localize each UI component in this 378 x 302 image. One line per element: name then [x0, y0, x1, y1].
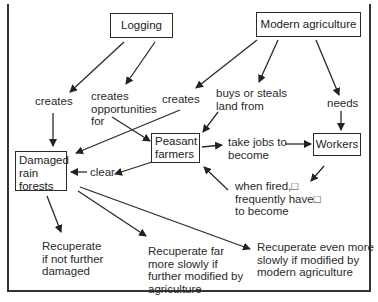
node-damaged-rain-forests-label: Damaged rain forests [19, 154, 69, 193]
arrow-forests-to-recuperate1 [47, 196, 61, 232]
arrow-buys-to-peasants [203, 112, 218, 132]
arrow-peasants-to-clear [115, 162, 152, 174]
node-modern-agriculture-label: Modern agriculture [261, 18, 357, 31]
outcome-recuperate-far-slowly: Recuperate far more slowly if further mo… [148, 245, 243, 295]
node-workers-label: Workers [316, 138, 359, 151]
node-peasant-farmers: Peasant farmers [151, 133, 200, 163]
arrow-logging-to-opportunities [126, 42, 155, 84]
node-damaged-rain-forests: Damaged rain forests [15, 151, 67, 191]
label-peasants-take-jobs: take jobs to become [228, 136, 287, 161]
outcome-recuperate-not-damaged: Recuperate if not further damaged [42, 240, 103, 278]
label-logging-opportunities: creates opportunities for [91, 90, 157, 128]
node-logging: Logging [110, 13, 173, 38]
label-peasants-clear: clear [90, 166, 115, 179]
label-agriculture-needs: needs [327, 97, 358, 110]
arrow-whenfired-to-peasants [204, 167, 228, 190]
label-agriculture-creates: creates [162, 93, 200, 106]
arrow-logging-to-creates [70, 42, 124, 92]
label-workers-fired: when fired,□ frequently have□ to become [235, 180, 321, 218]
arrow-forests-to-recuperate2 [78, 191, 146, 236]
arrow-agriculture-to-buys [259, 40, 278, 82]
arrow-agriculture-to-needs [316, 40, 339, 95]
label-logging-creates: creates [35, 95, 73, 108]
outcome-recuperate-even-slower: Recuperate even more slowly if modified … [257, 241, 374, 279]
node-peasant-farmers-label: Peasant farmers [155, 135, 197, 161]
arrow-agriculture-to-creates [196, 40, 257, 88]
label-agriculture-buys: buys or steals land from [216, 87, 287, 112]
arrow-workers-to-whenfired [311, 166, 324, 181]
node-workers: Workers [313, 133, 361, 156]
arrow-peasants-to-takejobs [202, 145, 222, 147]
node-modern-agriculture: Modern agriculture [256, 12, 361, 37]
arrow-forests-to-recuperate3 [80, 187, 250, 249]
node-logging-label: Logging [121, 19, 162, 32]
